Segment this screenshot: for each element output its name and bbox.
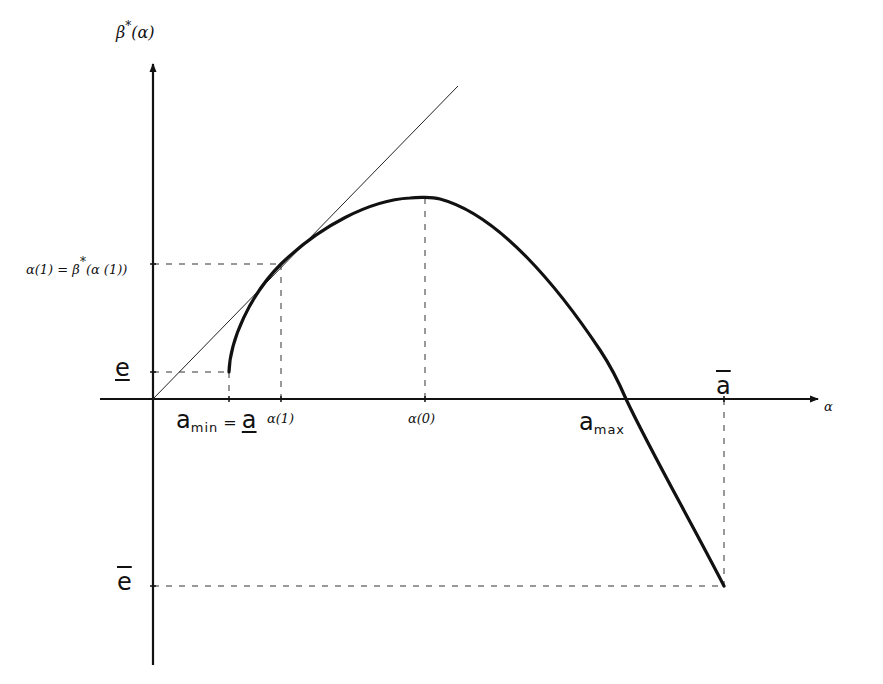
beta-star-curve <box>229 197 724 586</box>
a-min-underlined: a <box>242 406 257 434</box>
guide-lines <box>153 198 724 586</box>
a-min-eq: = <box>218 413 242 432</box>
y-axis-label: β*(α) <box>116 20 155 41</box>
a-min-base: a <box>176 406 191 434</box>
e-upper-label: e <box>117 570 132 594</box>
alpha1-tick-label: α(1) <box>267 412 294 425</box>
alpha0-tick-label: α(0) <box>408 412 435 425</box>
alpha1-equation-label: α(1) = β*(α (1)) <box>26 256 127 276</box>
a-min-label: amin = a <box>176 408 257 434</box>
diagram-canvas <box>0 0 883 684</box>
a-bar-label: a <box>716 374 731 398</box>
a-max-label: amax <box>579 410 625 436</box>
y-axis-label-base: β <box>116 23 125 42</box>
e-lower-label: e <box>115 356 130 380</box>
alpha1-eq-left: α(1) = β <box>26 262 80 277</box>
a-max-base: a <box>579 408 594 436</box>
alpha1-eq-right: (α (1)) <box>86 262 127 277</box>
a-min-sub: min <box>191 420 219 435</box>
y-axis-label-arg: (α) <box>131 23 154 42</box>
x-axis-label: α <box>824 400 833 413</box>
a-max-sub: max <box>594 422 625 437</box>
